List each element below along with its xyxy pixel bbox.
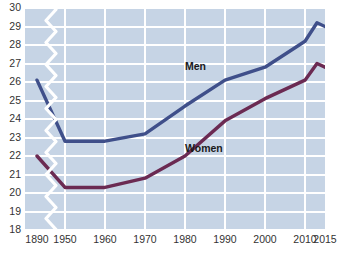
- x-tick-label-1990: 1990: [209, 234, 241, 245]
- x-tick-label-2000: 2000: [249, 234, 281, 245]
- y-tick-label-24: 24: [0, 113, 21, 124]
- y-tick-label-27: 27: [0, 58, 21, 69]
- y-tick-label-28: 28: [0, 39, 21, 50]
- y-tick-label-30: 30: [0, 2, 21, 13]
- y-tick-label-23: 23: [0, 132, 21, 143]
- series-label-men: Men: [185, 60, 206, 72]
- y-tick-label-26: 26: [0, 76, 21, 87]
- y-tick-label-18: 18: [0, 224, 21, 235]
- y-tick-label-29: 29: [0, 21, 21, 32]
- plot-area: Men Women: [25, 8, 325, 230]
- series-label-women: Women: [185, 142, 223, 154]
- x-tick-label-1970: 1970: [129, 234, 161, 245]
- x-tick-label-2015: 2015: [309, 234, 341, 245]
- x-tick-label-1980: 1980: [169, 234, 201, 245]
- axis-break-zigzag: [25, 8, 325, 230]
- y-tick-label-25: 25: [0, 95, 21, 106]
- y-tick-label-21: 21: [0, 169, 21, 180]
- y-tick-label-20: 20: [0, 187, 21, 198]
- y-tick-label-19: 19: [0, 206, 21, 217]
- y-tick-label-22: 22: [0, 150, 21, 161]
- x-tick-label-1950: 1950: [49, 234, 81, 245]
- x-tick-label-1960: 1960: [89, 234, 121, 245]
